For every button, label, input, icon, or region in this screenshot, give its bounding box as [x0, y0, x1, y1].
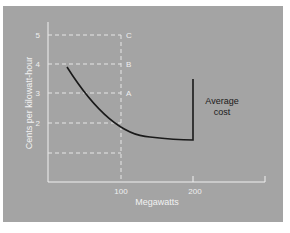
annotation-average: Average	[205, 96, 238, 106]
point-label-b: B	[126, 60, 131, 69]
xtick-100: 100	[114, 187, 128, 196]
annotation-cost: cost	[214, 107, 231, 117]
point-label-a: A	[126, 89, 132, 98]
average-cost-curve	[67, 67, 193, 140]
reference-lines	[48, 35, 121, 182]
x-axis-title: Megawatts	[135, 197, 179, 207]
ytick-3: 3	[36, 89, 41, 98]
ytick-4: 4	[36, 60, 41, 69]
ytick-5: 5	[36, 31, 41, 40]
point-label-c: C	[126, 31, 132, 40]
ytick-2: 2	[36, 119, 41, 128]
xtick-200: 200	[188, 187, 202, 196]
average-cost-chart: 5 4 3 2 C B A 100 200 Megawatts Cents pe…	[0, 0, 290, 233]
y-axis-title: Cents per kilowatt-hour	[24, 57, 34, 150]
